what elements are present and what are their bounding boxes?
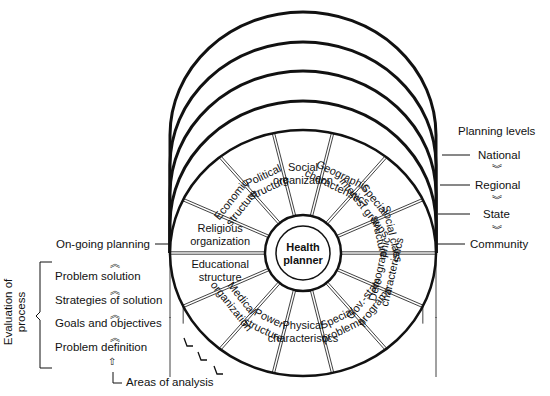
svg-text:Religious: Religious bbox=[198, 222, 244, 234]
hub-inner bbox=[276, 226, 330, 280]
sector-0: Religiousorganization bbox=[190, 222, 250, 247]
chevron-down-icon: ︾ bbox=[492, 222, 502, 237]
arrow-up-icon: ⇧ bbox=[108, 356, 116, 367]
level-community: Community bbox=[470, 238, 528, 250]
step-goals: Goals and objectives bbox=[55, 317, 162, 329]
hub-label-1: Health bbox=[286, 241, 320, 253]
areas-of-analysis: Areas of analysis bbox=[126, 376, 214, 388]
hub-label-2: planner bbox=[283, 254, 323, 266]
level-state: State bbox=[483, 208, 510, 220]
chevron-down-icon: ︾ bbox=[492, 192, 502, 207]
step-strategies: Strategies of solution bbox=[55, 294, 162, 306]
svg-text:structure: structure bbox=[199, 271, 242, 283]
chevron-up-icon: ︽ bbox=[110, 255, 120, 270]
planning-levels-title: Planning levels bbox=[458, 125, 535, 137]
sector-13: Educationalstructure bbox=[191, 258, 249, 283]
svg-text:Physical: Physical bbox=[283, 319, 324, 331]
health-planner-diagram: ReligiousorganizationEconomicstructurePo… bbox=[0, 0, 550, 396]
level-regional: Regional bbox=[475, 179, 520, 191]
step-problem-solution: Problem solution bbox=[55, 270, 141, 282]
ongoing-planning: On-going planning bbox=[56, 238, 150, 250]
svg-text:organization: organization bbox=[190, 235, 250, 247]
chevron-down-icon: ︾ bbox=[492, 161, 502, 176]
svg-text:Educational: Educational bbox=[191, 258, 249, 270]
evaluation-of-process: Evaluation of process bbox=[2, 272, 28, 352]
level-national: National bbox=[478, 149, 520, 161]
step-problem-definition: Problem definition bbox=[55, 341, 147, 353]
